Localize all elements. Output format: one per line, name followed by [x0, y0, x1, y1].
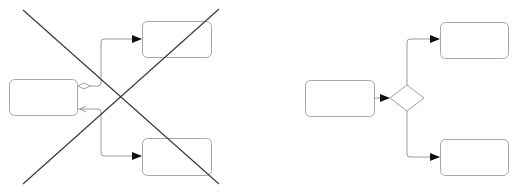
target-top-node: [143, 22, 212, 58]
edge-source-to-top: [90, 39, 141, 86]
target-top-node: [441, 23, 509, 59]
edge-decision-to-top: [407, 39, 439, 85]
diagram-canvas: [0, 0, 518, 192]
source-node: [306, 81, 375, 117]
source-node: [10, 80, 78, 116]
small-diamond-marker-icon: [78, 83, 90, 89]
edge-decision-to-bottom: [407, 111, 439, 157]
target-bottom-node: [143, 139, 212, 176]
edge-source-to-bottom: [78, 109, 141, 156]
decision-diamond: [390, 85, 424, 111]
incorrect-example-panel: [10, 9, 220, 184]
target-bottom-node: [441, 140, 509, 176]
correct-example-panel: [306, 23, 509, 176]
